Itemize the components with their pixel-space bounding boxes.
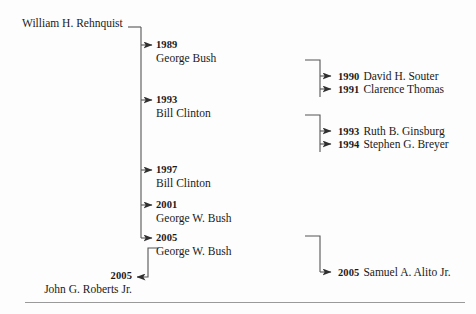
spine-entry-year: 1997 [156,164,211,176]
spine-entry-2001: 2001 George W. Bush [156,199,232,225]
spine-entry-name: George Bush [156,52,216,65]
spine-entry-name: Bill Clinton [156,107,211,120]
spine-entry-1997: 1997 Bill Clinton [156,164,211,190]
branch-entry-year: 1990 [338,71,359,82]
spine-entry-2005: 2005 George W. Bush [156,232,232,258]
terminal-node-roberts: 2005 John G. Roberts Jr. [44,270,132,296]
branch-entry-year: 2005 [338,267,359,278]
spine-entry-year: 2005 [156,232,232,244]
branch-entry-1994-breyer: 1994Stephen G. Breyer [338,138,449,151]
branch-entry-1993-ginsburg: 1993Ruth B. Ginsburg [338,125,445,138]
spine-entry-1993: 1993 Bill Clinton [156,94,211,120]
spine-entry-name: Bill Clinton [156,177,211,190]
branch-entry-1990-souter: 1990David H. Souter [338,70,438,83]
terminal-year: 2005 [44,270,132,282]
branch-entry-name: Stephen G. Breyer [363,138,448,150]
branch-entry-2005-alito: 2005Samuel A. Alito Jr. [338,266,451,279]
branch-entry-year: 1994 [338,139,359,150]
branch-entry-name: David H. Souter [363,70,438,82]
branch-entry-year: 1993 [338,126,359,137]
branch-entry-year: 1991 [338,84,359,95]
spine-entry-name: George W. Bush [156,245,232,258]
bottom-divider [25,302,465,303]
branch-entry-name: Clarence Thomas [363,83,444,95]
timeline-diagram: William H. Rehnquist 1989 George Bush 19… [0,0,476,314]
spine-entry-year: 2001 [156,199,232,211]
branch-entry-name: Samuel A. Alito Jr. [363,266,450,278]
terminal-name: John G. Roberts Jr. [44,283,132,296]
branch-entry-1991-thomas: 1991Clarence Thomas [338,83,444,96]
spine-entry-name: George W. Bush [156,212,232,225]
spine-entry-1989: 1989 George Bush [156,39,216,65]
spine-entry-year: 1993 [156,94,211,106]
spine-entry-year: 1989 [156,39,216,51]
root-node-rehnquist: William H. Rehnquist [22,17,123,30]
branch-entry-name: Ruth B. Ginsburg [363,125,444,137]
root-label-text: William H. Rehnquist [22,17,123,29]
